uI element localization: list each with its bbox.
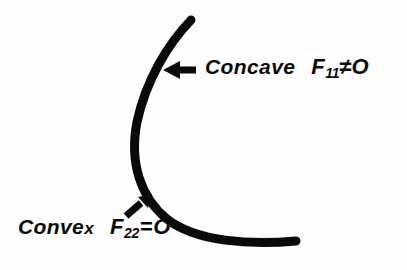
convex-formula: F22=O [110, 216, 171, 240]
left-pointing-arrow [163, 61, 196, 79]
figure-canvas: ConcaveF11≠O ConvexF22=O [0, 0, 407, 270]
concave-word: Concave [205, 56, 295, 77]
thick-black-arc [135, 20, 296, 242]
concave-formula-value: O [351, 54, 369, 79]
convex-formula-relation: = [139, 214, 153, 239]
convex-formula-subscript: 22 [124, 225, 139, 241]
concave-annotation-label: ConcaveF11≠O [205, 56, 369, 80]
concave-formula-symbol: F [311, 54, 325, 79]
convex-word-tail: x [84, 219, 94, 238]
convex-annotation-label: ConvexF22=O [18, 216, 171, 240]
convex-formula-value: O [153, 214, 171, 239]
up-right-diagonal-arrow [126, 194, 152, 216]
concave-formula-relation: ≠ [339, 54, 351, 79]
concave-formula-subscript: 11 [325, 65, 339, 81]
concave-formula: F11≠O [311, 56, 369, 80]
convex-word-head: Conve [18, 216, 84, 237]
convex-formula-symbol: F [110, 214, 124, 239]
